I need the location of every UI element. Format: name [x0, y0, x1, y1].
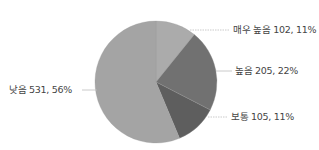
data-label-medium: 보통 105, 11%: [231, 111, 294, 122]
pie-slices: [95, 21, 217, 143]
data-label-high: 높음 205, 22%: [235, 65, 298, 76]
data-label-very-high: 매우 높음 102, 11%: [233, 24, 316, 35]
data-label-low: 낮음 531, 56%: [9, 84, 72, 95]
